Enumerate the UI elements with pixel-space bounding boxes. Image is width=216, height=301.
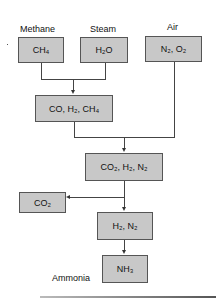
label-ammonia: Ammonia (52, 273, 90, 283)
node-h2o-text: H2O (96, 45, 113, 55)
bottom-rule (40, 296, 216, 298)
node-co2-h2-n2-text: CO₂, H₂, N₂ (101, 162, 148, 172)
connector-ch4-down (41, 63, 42, 80)
label-methane: Methane (20, 24, 55, 34)
node-co2: CO₂ (19, 192, 66, 213)
node-nh3-text: NH₃ (117, 264, 134, 274)
connector-air-down (174, 62, 175, 138)
arrow-down-icon (122, 250, 126, 254)
connector-co2-h2-n2-down (124, 181, 125, 208)
stray-mark (7, 44, 8, 45)
node-h2o: H2O (80, 37, 128, 63)
arrow-left-icon (66, 195, 70, 199)
connector-h2o-down (105, 63, 106, 80)
node-h2-n2-text: H₂, N₂ (113, 221, 138, 231)
node-n2-o2-text: N₂, O₂ (161, 44, 187, 54)
node-co-h2-ch4-text: CO, H₂, CH₄ (49, 104, 99, 114)
arrow-down-icon (71, 90, 75, 94)
node-nh3: NH₃ (102, 255, 148, 283)
label-steam: Steam (90, 24, 116, 34)
connector-to-co2 (70, 197, 125, 198)
node-ch4-text: CH4 (33, 45, 49, 55)
connector-co-h2-ch4-down (74, 122, 75, 138)
arrow-down-icon (122, 148, 126, 152)
node-co-h2-ch4: CO, H₂, CH₄ (35, 95, 113, 122)
node-n2-o2: N₂, O₂ (145, 36, 202, 62)
node-co2-h2-n2: CO₂, H₂, N₂ (85, 153, 163, 181)
node-h2-n2: H₂, N₂ (97, 212, 153, 240)
arrow-down-icon (122, 207, 126, 211)
label-air: Air (167, 22, 178, 32)
node-co2-text: CO₂ (34, 198, 51, 208)
node-ch4: CH4 (18, 37, 64, 63)
